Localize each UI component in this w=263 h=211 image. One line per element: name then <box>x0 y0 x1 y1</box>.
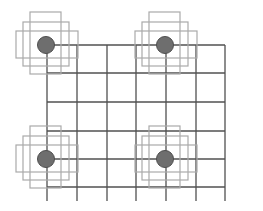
node-top-right <box>157 37 174 54</box>
node-bottom-left <box>38 151 55 168</box>
grid-lines <box>47 45 225 201</box>
grid-diagram <box>0 0 263 211</box>
node-top-left <box>38 37 55 54</box>
node-bottom-right <box>157 151 174 168</box>
